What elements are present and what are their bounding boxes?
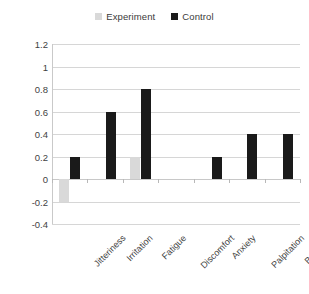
gridline <box>52 224 300 225</box>
y-axis-tick-label: 1 <box>8 61 48 72</box>
chart-legend: ExperimentControl <box>0 11 309 22</box>
x-axis-tick-mark <box>194 179 195 183</box>
y-axis-tick-label: -0.4 <box>8 219 48 230</box>
x-axis-tick-mark <box>123 179 124 183</box>
plot-area <box>52 44 300 224</box>
x-axis-label-irritation: Irritation <box>125 233 155 263</box>
x-axis-tick-mark <box>158 179 159 183</box>
x-axis-tick-mark <box>87 179 88 183</box>
y-axis-tick-label: 0.4 <box>8 129 48 140</box>
x-axis-tick-mark <box>229 179 230 183</box>
legend-swatch-icon <box>95 13 102 20</box>
bar-control-jitteriness <box>70 157 80 180</box>
x-axis-label-jitteriness: Jitteriness <box>92 233 128 269</box>
y-axis-tick-label: 0 <box>8 174 48 185</box>
legend-entry-control[interactable]: Control <box>171 11 213 22</box>
bar-control-bad-odor <box>283 134 293 179</box>
bar-control-anxiety <box>212 157 222 180</box>
x-axis-tick-mark <box>265 179 266 183</box>
x-axis-tick-mark <box>52 179 53 183</box>
y-axis-tick-label: 0.2 <box>8 151 48 162</box>
bar-experiment-fatigue <box>130 157 140 180</box>
bar-experiment-jitteriness <box>59 179 69 202</box>
y-axis-tick-label: -0.2 <box>8 196 48 207</box>
legend-label: Control <box>182 11 213 22</box>
x-axis-label-palpitation: Palpitation <box>269 233 306 270</box>
legend-entry-experiment[interactable]: Experiment <box>95 11 155 22</box>
legend-swatch-icon <box>171 13 178 20</box>
x-axis-label-anxiety: Anxiety <box>230 233 258 261</box>
bars-layer <box>52 44 300 224</box>
y-axis-tick-label: 0.6 <box>8 106 48 117</box>
bar-control-palpitation <box>247 134 257 179</box>
x-axis-tick-mark <box>300 179 301 183</box>
x-axis-label-fatigue: Fatigue <box>159 233 187 261</box>
y-axis-tick-label: 1.2 <box>8 39 48 50</box>
bar-control-fatigue <box>141 89 151 179</box>
y-axis-tick-label: 0.8 <box>8 84 48 95</box>
legend-label: Experiment <box>106 11 155 22</box>
bar-control-irritation <box>106 112 116 180</box>
